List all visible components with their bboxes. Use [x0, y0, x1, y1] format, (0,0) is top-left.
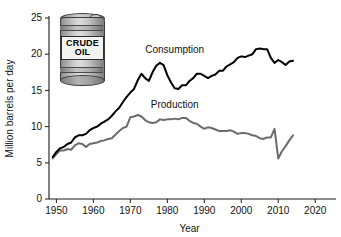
- oil-chart-svg: 0510152025 19501960197019801990200020102…: [0, 0, 341, 237]
- y-tick-label: 25: [31, 12, 43, 23]
- y-axis-ticks: 0510152025: [31, 12, 49, 204]
- barrel-rib-upper: [60, 25, 103, 31]
- x-tick-label: 2010: [267, 205, 290, 216]
- barrel-bottom: [60, 75, 105, 86]
- y-tick-label: 5: [36, 157, 42, 168]
- y-tick-label: 20: [31, 48, 43, 59]
- barrel-rib-lower: [60, 67, 103, 73]
- y-tick-label: 10: [31, 121, 43, 132]
- x-tick-label: 1950: [45, 205, 68, 216]
- barrel-label: CRUDE OIL: [61, 36, 104, 60]
- series-label-consumption: Consumption: [145, 44, 204, 55]
- production-line: [53, 115, 293, 158]
- y-axis-title: Million barrels per day: [4, 60, 15, 158]
- x-tick-label: 2020: [304, 205, 327, 216]
- chart-container: 0510152025 19501960197019801990200020102…: [0, 0, 341, 237]
- x-axis-title: Year: [179, 223, 200, 234]
- y-tick-label: 15: [31, 85, 43, 96]
- x-tick-label: 1970: [119, 205, 142, 216]
- crude-oil-barrel-illustration: CRUDE OIL: [57, 11, 106, 87]
- x-tick-label: 1990: [193, 205, 216, 216]
- series-label-production: Production: [151, 99, 199, 110]
- x-tick-label: 1960: [82, 205, 105, 216]
- x-tick-label: 1980: [156, 205, 179, 216]
- y-tick-label: 0: [36, 193, 42, 204]
- x-axis-ticks: 19501960197019801990200020102020: [45, 199, 327, 216]
- barrel-label-line2: OIL: [75, 48, 91, 57]
- x-tick-label: 2000: [230, 205, 253, 216]
